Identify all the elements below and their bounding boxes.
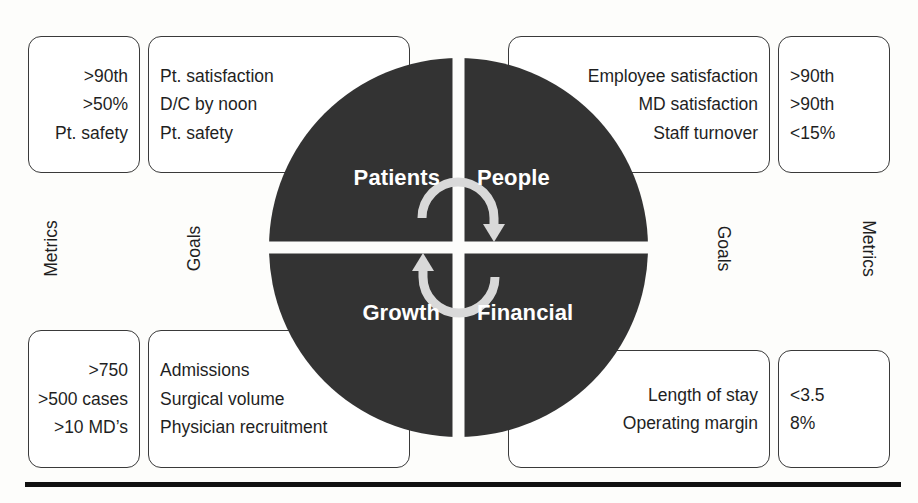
metric-value: >500 cases: [38, 385, 128, 413]
quadrant-label-patients: Patients: [268, 165, 440, 191]
metric-value: <3.5: [790, 381, 825, 409]
balanced-scorecard-diagram: >90th >50% Pt. safety Pt. satisfaction D…: [0, 0, 918, 503]
quadrant-label-growth: Growth: [268, 300, 440, 326]
metric-value: >90th: [790, 62, 834, 90]
metric-value: >750: [89, 356, 128, 384]
caption-goals-right: Goals: [713, 194, 734, 304]
metrics-box-growth: >750 >500 cases >10 MD’s: [28, 330, 140, 468]
goal-item: Pt. safety: [160, 119, 233, 147]
goal-item: Admissions: [160, 356, 249, 384]
caption-goals-left: Goals: [184, 194, 205, 304]
quadrant-label-people: People: [477, 165, 649, 191]
metric-value: >10 MD’s: [54, 413, 128, 441]
metric-value: >50%: [83, 90, 128, 118]
quadrant-label-financial: Financial: [477, 300, 649, 326]
metric-value: <15%: [790, 119, 835, 147]
goal-item: MD satisfaction: [638, 90, 758, 118]
metric-value: Pt. safety: [55, 119, 128, 147]
quadrant-wheel: [269, 58, 648, 437]
goal-item: Pt. satisfaction: [160, 62, 274, 90]
caption-metrics-right: Metrics: [858, 194, 879, 304]
metrics-box-people: >90th >90th <15%: [778, 36, 890, 173]
metric-value: >90th: [84, 62, 128, 90]
goal-item: Length of stay: [648, 381, 758, 409]
metric-value: >90th: [790, 90, 834, 118]
metric-value: 8%: [790, 409, 815, 437]
caption-metrics-left: Metrics: [41, 194, 62, 304]
goal-item: Staff turnover: [653, 119, 758, 147]
bottom-divider-rule: [25, 482, 901, 487]
goal-item: D/C by noon: [160, 90, 257, 118]
metrics-box-financial: <3.5 8%: [778, 350, 890, 468]
goal-item: Surgical volume: [160, 385, 285, 413]
metrics-box-patients: >90th >50% Pt. safety: [28, 36, 140, 173]
